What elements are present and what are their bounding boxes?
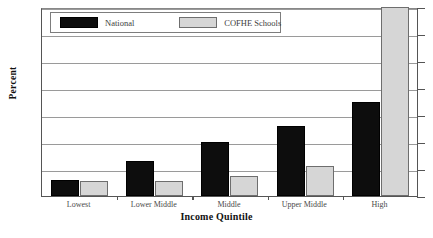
y-axis-title: Percent [8, 48, 18, 118]
bar-cluster [343, 9, 418, 196]
legend-label-national: National [105, 18, 134, 28]
right-tick-60 [418, 35, 425, 36]
bar [201, 142, 229, 196]
x-tick-label-upper-middle: Upper Middle [282, 200, 327, 209]
x-tick [268, 196, 269, 200]
bar [230, 176, 258, 196]
bar-cluster [192, 9, 267, 196]
bar-chart: Percent Income Quintile National COFHE S… [0, 0, 433, 238]
right-tick-10 [418, 170, 425, 171]
right-tick-30 [418, 116, 425, 117]
bar [51, 180, 79, 196]
bar [381, 7, 409, 196]
plot-area [41, 8, 417, 197]
x-tick-label-high: High [371, 200, 387, 209]
right-tick-20 [418, 143, 425, 144]
bar-cluster [42, 9, 117, 196]
x-tick-label-lower-middle: Lower Middle [131, 200, 177, 209]
x-tick [343, 196, 344, 200]
bar-cluster [117, 9, 192, 196]
x-tick-label-middle: Middle [217, 200, 240, 209]
legend-label-cofhe: COFHE Schools [224, 18, 281, 28]
x-tick-label-lowest: Lowest [67, 200, 91, 209]
x-tick [192, 196, 193, 200]
chart-legend: National COFHE Schools [50, 12, 281, 33]
bar [126, 161, 154, 196]
legend-item-cofhe: COFHE Schools [170, 17, 281, 28]
gray-swatch-icon [179, 17, 217, 28]
right-tick-70 [418, 8, 425, 9]
bar [155, 181, 183, 196]
bar [80, 181, 108, 196]
x-axis-title: Income Quintile [0, 211, 433, 222]
right-tick-50 [418, 62, 425, 63]
x-tick [117, 196, 118, 200]
legend-item-national: National [51, 17, 134, 28]
black-swatch-icon [60, 17, 98, 28]
bar [352, 102, 380, 197]
right-tick-40 [418, 89, 425, 90]
bar-cluster [268, 9, 343, 196]
right-tick-0 [418, 197, 425, 198]
bar [277, 126, 305, 196]
bar [306, 166, 334, 196]
